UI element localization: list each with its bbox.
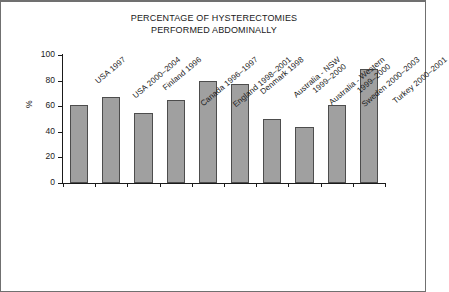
y-tick-20: 20 <box>58 157 63 158</box>
category-label-line: England 1998–2001 <box>231 55 293 109</box>
x-tick-2 <box>127 183 128 187</box>
chart-title-line-1: PERCENTAGE OF HYSTERECTOMIES <box>1 13 427 25</box>
y-tick-label-0: 0 <box>50 177 55 187</box>
y-tick-label-40: 40 <box>46 126 55 136</box>
bar <box>102 97 120 183</box>
x-tick-0 <box>63 183 64 187</box>
y-tick-40: 40 <box>58 132 63 133</box>
plot-area: 020406080100 USA 1997USA 2000–2004Finlan… <box>63 55 385 183</box>
y-axis-label: % <box>24 100 34 108</box>
chart-title: PERCENTAGE OF HYSTERECTOMIES PERFORMED A… <box>1 13 427 36</box>
bar <box>263 119 281 183</box>
y-tick-label-100: 100 <box>41 49 55 59</box>
category-label: England 1998–2001 <box>231 55 293 109</box>
x-tick-4 <box>192 183 193 187</box>
chart-title-line-2: PERFORMED ABDOMINALLY <box>1 25 427 37</box>
x-tick-7 <box>288 183 289 187</box>
y-tick-label-60: 60 <box>46 100 55 110</box>
y-tick-60: 60 <box>58 106 63 107</box>
x-tick-5 <box>224 183 225 187</box>
x-tick-6 <box>256 183 257 187</box>
bar <box>167 100 185 183</box>
x-tick-10 <box>385 183 386 187</box>
bar <box>328 105 346 183</box>
category-label: USA 1997 <box>94 55 128 86</box>
x-tick-3 <box>160 183 161 187</box>
x-tick-9 <box>353 183 354 187</box>
x-tick-1 <box>95 183 96 187</box>
y-tick-label-80: 80 <box>46 75 55 85</box>
x-tick-8 <box>321 183 322 187</box>
y-tick-80: 80 <box>58 81 63 82</box>
y-tick-label-20: 20 <box>46 151 55 161</box>
category-label-line: USA 1997 <box>94 55 128 86</box>
y-tick-100: 100 <box>58 55 63 56</box>
bar <box>134 113 152 183</box>
bar <box>70 105 88 183</box>
bar <box>295 127 313 183</box>
